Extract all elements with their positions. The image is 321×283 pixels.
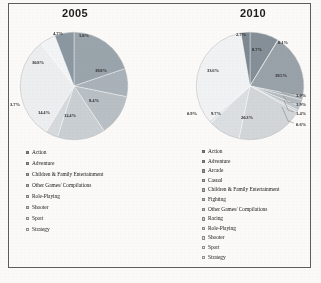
pie-value-label: 4.7% — [53, 31, 63, 36]
legend-item-label: Shooter — [208, 235, 224, 241]
pie-callout-label: 1.9% — [296, 102, 306, 107]
pie-value-label: 0.9% — [187, 111, 197, 116]
legend-item: Children & Family Entertainment — [202, 185, 320, 195]
legend-item-label: Casual — [208, 178, 222, 184]
legend-swatch-icon — [202, 188, 205, 191]
legend-item-label: Action — [32, 150, 46, 156]
legend-item: Other Games/ Compilations — [202, 205, 320, 215]
legend-item: Sport — [202, 243, 320, 253]
legend-item-label: Fighting — [208, 197, 226, 203]
legend-item-label: Role-Playing — [208, 226, 236, 232]
legend-2005: ActionAdventureChildren & Family Enterta… — [26, 147, 166, 235]
legend-swatch-icon — [26, 184, 29, 187]
pie-value-label: 8.7% — [252, 47, 262, 52]
chart-title-2005: 2005 — [44, 7, 106, 19]
pie-value-label: 19.8% — [95, 68, 107, 73]
pie-value-label: 8.4% — [89, 98, 99, 103]
legend-swatch-icon — [26, 151, 29, 154]
legend-item: Sport — [26, 213, 166, 224]
pie-callout-label: 1.0% — [296, 93, 306, 98]
legend-item: Strategy — [202, 253, 320, 263]
legend-item-label: Shooter — [32, 205, 48, 211]
legend-item-label: Children & Family Entertainment — [32, 172, 103, 178]
legend-item: Racing — [202, 214, 320, 224]
figure-page: 2005 2010 4.7%5.8%19.8%8.4%12.4%14.4%3.7… — [0, 0, 321, 283]
pie-value-label: 5.8% — [79, 33, 89, 38]
legend-item-label: Sport — [208, 245, 219, 251]
pie-value-label: 2.7% — [236, 32, 246, 37]
legend-item: Action — [202, 147, 320, 157]
legend-swatch-icon — [26, 195, 29, 198]
legend-swatch-icon — [202, 198, 205, 201]
legend-item: Strategy — [26, 224, 166, 235]
legend-swatch-icon — [202, 227, 205, 230]
legend-swatch-icon — [26, 206, 29, 209]
legend-swatch-icon — [202, 246, 205, 249]
pie-value-label: 33.6% — [207, 68, 219, 73]
legend-item-label: Children & Family Entertainment — [208, 187, 279, 193]
legend-swatch-icon — [26, 162, 29, 165]
legend-item: Shooter — [202, 233, 320, 243]
legend-item: Fighting — [202, 195, 320, 205]
pie-value-label: 19.5% — [275, 73, 287, 78]
legend-item: Action — [26, 147, 166, 158]
legend-item-label: Arcade — [208, 168, 223, 174]
legend-item: Shooter — [26, 202, 166, 213]
legend-item-label: Strategy — [32, 227, 50, 233]
legend-item-label: Strategy — [208, 255, 226, 261]
legend-item-label: Sport — [32, 216, 43, 222]
legend-item-label: Adventure — [208, 159, 230, 165]
legend-swatch-icon — [202, 169, 205, 172]
chart-title-2010: 2010 — [222, 7, 284, 19]
legend-item: Adventure — [202, 157, 320, 167]
legend-item-label: Racing — [208, 216, 223, 222]
legend-swatch-icon — [26, 173, 29, 176]
legend-item-label: Action — [208, 149, 222, 155]
pie-chart-2010 — [194, 30, 306, 142]
legend-item-label: Other Games/ Compilations — [208, 207, 267, 213]
legend-item: Adventure — [26, 158, 166, 169]
legend-item: Role-Playing — [26, 191, 166, 202]
legend-item: Children & Family Entertainment — [26, 169, 166, 180]
pie-callout-label: 0.6% — [296, 122, 306, 127]
legend-item-label: Adventure — [32, 161, 54, 167]
legend-swatch-icon — [202, 217, 205, 220]
legend-swatch-icon — [202, 208, 205, 211]
legend-swatch-icon — [202, 160, 205, 163]
pie-chart-2005 — [18, 30, 130, 142]
legend-item: Arcade — [202, 166, 320, 176]
pie-value-label: 9.7% — [211, 111, 221, 116]
pie-callout-label: 1.4% — [296, 111, 306, 116]
legend-swatch-icon — [26, 217, 29, 220]
legend-swatch-icon — [202, 179, 205, 182]
legend-item-label: Role-Playing — [32, 194, 60, 200]
legend-swatch-icon — [202, 256, 205, 259]
legend-swatch-icon — [202, 150, 205, 153]
pie-value-label: 3.7% — [10, 102, 20, 107]
legend-item-label: Other Games/ Compilations — [32, 183, 91, 189]
legend-item: Role-Playing — [202, 224, 320, 234]
legend-swatch-icon — [26, 228, 29, 231]
pie-value-label: 14.4% — [38, 110, 50, 115]
legend-item: Casual — [202, 176, 320, 186]
pie-value-label: 12.4% — [64, 113, 76, 118]
pie-value-label: 0.1% — [278, 40, 288, 45]
legend-2010: ActionAdventureArcadeCasualChildren & Fa… — [202, 147, 320, 265]
legend-item: Other Games/ Compilations — [26, 180, 166, 191]
legend-swatch-icon — [202, 236, 205, 239]
pie-value-label: 20.3% — [241, 115, 253, 120]
pie-value-label: 30.8% — [32, 60, 44, 65]
